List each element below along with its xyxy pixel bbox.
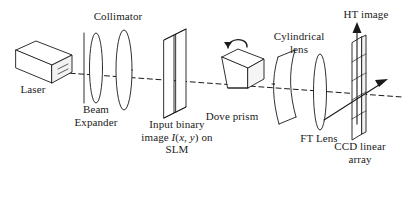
collimator-lens-2 [116, 30, 132, 110]
label-beam-expander: Beam Expander [60, 103, 132, 128]
slm-panel [164, 29, 186, 118]
ft-lens [314, 54, 327, 130]
ccd-linear-array-body [352, 35, 366, 140]
laser-body [16, 41, 72, 83]
label-dove-prism: Dove prism [198, 110, 266, 123]
rotation-arrow-icon [224, 40, 247, 48]
label-slm: Input binary image I(x, y) on SLM [128, 118, 226, 156]
label-beam-expander-line1: Beam [83, 103, 109, 115]
label-collimator: Collimator [76, 10, 160, 23]
label-ccd-line2: array [348, 153, 371, 165]
label-ccd-line1: CCD linear [334, 140, 385, 152]
optical-system-diagram [0, 0, 402, 197]
label-slm-on-word: on [199, 131, 213, 143]
label-slm-line2: image I(x, y) on [141, 131, 212, 143]
label-slm-line1: Input binary [149, 118, 204, 130]
collimator-lens-1 [90, 33, 103, 103]
label-beam-expander-line2: Expander [75, 116, 118, 128]
label-slm-line3: SLM [166, 143, 189, 155]
label-cylindrical-line2: lens [290, 43, 308, 55]
label-cylindrical-line1: Cylindrical [274, 30, 325, 42]
cylindrical-lens-body [272, 50, 296, 124]
label-cylindrical-lens: Cylindrical lens [258, 30, 340, 55]
label-ht-image: HT image [332, 8, 400, 21]
label-ccd-linear-array: CCD linear array [320, 140, 400, 165]
figure-canvas: Collimator Laser Beam Expander Input bin… [0, 0, 402, 197]
label-slm-image-word: image [141, 131, 171, 143]
label-laser: Laser [9, 83, 57, 96]
